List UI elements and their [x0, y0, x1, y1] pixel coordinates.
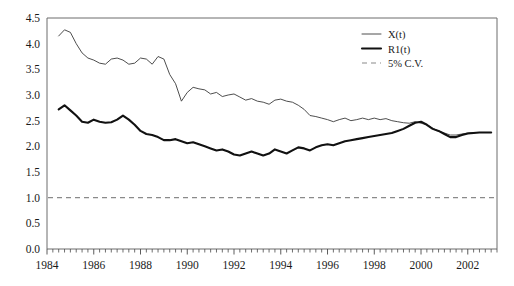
- x-tick-label: 1996: [316, 259, 339, 271]
- x-tick-label: 1986: [82, 259, 105, 271]
- x-tick-label: 1992: [223, 259, 246, 271]
- y-tick-label: 4.5: [26, 12, 41, 24]
- x-tick-label: 2002: [456, 259, 479, 271]
- y-tick-label: 3.5: [26, 63, 41, 75]
- x-tick-label: 1998: [363, 259, 386, 271]
- x-tick-label: 1994: [269, 259, 292, 271]
- legend-item: R1(t): [362, 44, 411, 56]
- y-tick-label: 0.5: [26, 217, 41, 229]
- legend-label: X(t): [388, 29, 406, 41]
- legend-label: R1(t): [388, 44, 411, 56]
- y-tick-label: 4.0: [26, 38, 41, 50]
- y-tick-label: 3.0: [26, 89, 41, 101]
- legend-item: X(t): [362, 29, 406, 41]
- x-tick-label: 1984: [36, 259, 59, 271]
- y-tick-label: 1.5: [26, 166, 41, 178]
- y-tick-label: 2.0: [26, 140, 41, 152]
- y-tick-label: 1.0: [26, 192, 41, 204]
- x-tick-label: 1990: [176, 259, 199, 271]
- legend-item: 5% C.V.: [362, 58, 423, 69]
- plot-frame: [47, 18, 497, 249]
- legend-label: 5% C.V.: [388, 58, 423, 69]
- series-line-x: [59, 30, 491, 135]
- y-tick-label: 2.5: [26, 115, 41, 127]
- series-line-r1: [59, 105, 491, 155]
- chart-figure: 0.00.51.01.52.02.53.03.54.04.51984198619…: [0, 0, 514, 286]
- line-chart: 0.00.51.01.52.02.53.03.54.04.51984198619…: [0, 0, 514, 286]
- x-tick-label: 2000: [410, 259, 433, 271]
- x-tick-label: 1988: [129, 259, 152, 271]
- y-tick-label: 0.0: [26, 243, 41, 255]
